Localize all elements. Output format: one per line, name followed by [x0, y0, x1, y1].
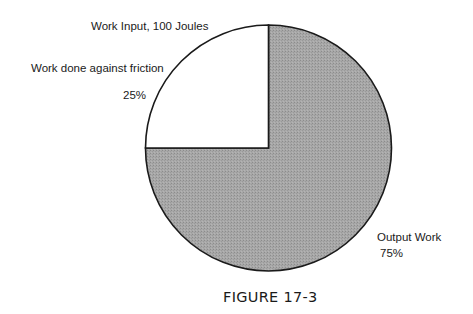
- pie-chart: [0, 0, 473, 314]
- output-slice-name: Output Work: [377, 232, 441, 244]
- friction-slice-percent: 25%: [123, 90, 146, 102]
- figure-caption: FIGURE 17-3: [223, 289, 318, 305]
- output-slice-percent: 75%: [380, 248, 403, 260]
- work-input-label: Work Input, 100 Joules: [91, 21, 208, 33]
- slice-friction: [146, 25, 269, 148]
- friction-slice-name: Work done against friction: [31, 63, 164, 75]
